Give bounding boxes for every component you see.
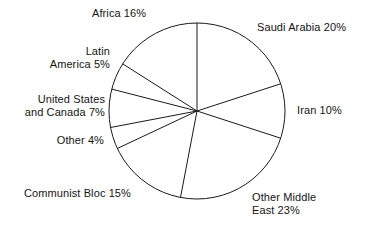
- slice-label-iran: Iran 10%: [297, 104, 342, 117]
- slice-label-latin-america: Latin America 5%: [12, 45, 110, 71]
- slice-label-communist-bloc: Communist Bloc 15%: [24, 187, 131, 200]
- slice-label-other: Other 4%: [46, 134, 104, 147]
- pie-chart-figure: Africa 16% Saudi Arabia 20% Latin Americ…: [0, 0, 371, 231]
- pie-slices: [109, 23, 285, 199]
- slice-label-united-states-and-canada: United States and Canada 7%: [8, 93, 105, 119]
- slice-label-africa: Africa 16%: [92, 7, 146, 20]
- slice-label-saudi-arabia: Saudi Arabia 20%: [257, 21, 346, 34]
- slice-label-other-middle-east: Other Middle East 23%: [252, 191, 316, 217]
